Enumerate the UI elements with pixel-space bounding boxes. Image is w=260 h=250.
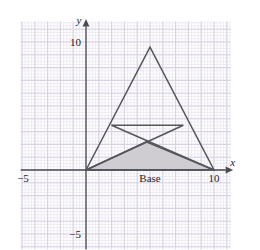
coordinate-plane-diagram: y x −5 10 10 −5 Base	[0, 0, 260, 250]
labels-group: y x −5 10 10 −5 Base	[17, 14, 235, 240]
grid-major-group	[21, 22, 231, 250]
x-tick-label-neg5: −5	[17, 172, 29, 184]
y-tick-label-10: 10	[70, 36, 82, 48]
y-axis-label: y	[76, 14, 82, 26]
geometry-figure-container: y x −5 10 10 −5 Base	[0, 0, 260, 250]
x-tick-label-10: 10	[209, 172, 221, 184]
base-annotation-label: Base	[139, 172, 161, 184]
x-axis-label: x	[229, 156, 235, 168]
y-tick-label-neg5: −5	[69, 228, 81, 240]
grid-minor-group	[21, 22, 231, 250]
